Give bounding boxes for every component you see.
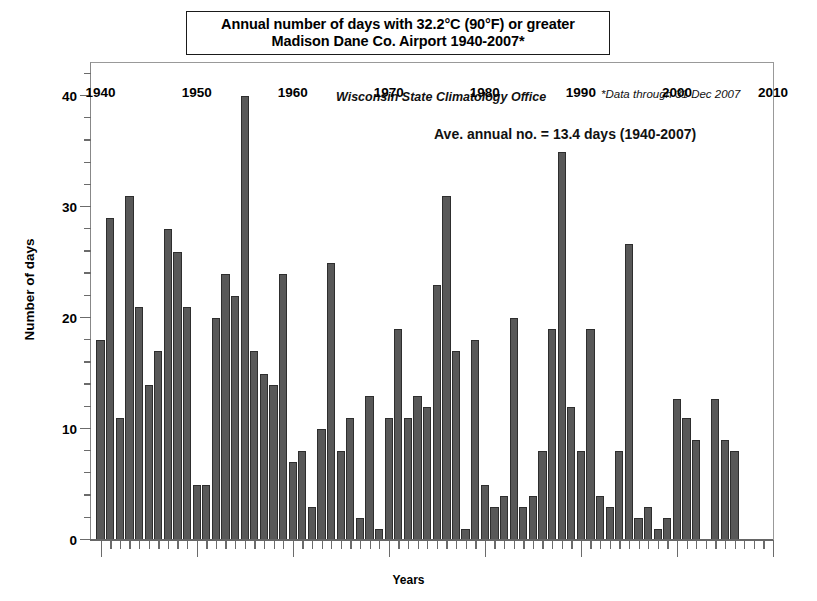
y-tick-20	[80, 317, 91, 318]
y-tick-12	[84, 406, 91, 407]
x-tick-1999	[667, 540, 668, 549]
x-axis: 19401950196019701980199020002010	[91, 63, 773, 540]
y-tick-14	[84, 383, 91, 384]
x-tick-2004	[715, 540, 716, 549]
x-tick-label-1940: 1940	[86, 85, 116, 100]
y-tick-34	[84, 162, 91, 163]
y-tick-18	[84, 339, 91, 340]
x-tick-1959	[283, 540, 284, 549]
x-tick-1948	[177, 540, 178, 549]
x-tick-1974	[427, 540, 428, 549]
y-tick-42	[84, 73, 91, 74]
x-tick-1997	[648, 540, 649, 549]
x-axis-title: Years	[0, 573, 817, 587]
x-tick-2010	[773, 540, 774, 557]
x-tick-1991	[590, 540, 591, 549]
x-tick-1964	[331, 540, 332, 549]
x-tick-1970	[389, 540, 390, 557]
x-tick-2005	[725, 540, 726, 549]
x-tick-1987	[552, 540, 553, 549]
x-tick-1983	[514, 540, 515, 549]
y-tick-label-20: 20	[62, 311, 77, 326]
x-tick-1988	[562, 540, 563, 549]
y-tick-30	[80, 206, 91, 207]
x-tick-1973	[418, 540, 419, 549]
x-tick-1966	[350, 540, 351, 549]
x-tick-1985	[533, 540, 534, 549]
x-tick-1971	[398, 540, 399, 549]
y-tick-8	[84, 450, 91, 451]
chart-title-line-2: Madison Dane Co. Airport 1940-2007*	[271, 33, 524, 50]
x-tick-label-1950: 1950	[182, 85, 212, 100]
x-tick-1955	[245, 540, 246, 549]
x-tick-1992	[600, 540, 601, 549]
x-tick-1965	[341, 540, 342, 549]
y-tick-26	[84, 250, 91, 251]
x-tick-1946	[158, 540, 159, 549]
y-tick-16	[84, 361, 91, 362]
x-tick-1994	[619, 540, 620, 549]
x-tick-1951	[206, 540, 207, 549]
x-tick-1950	[197, 540, 198, 557]
x-axis-line	[90, 539, 773, 541]
x-tick-1949	[187, 540, 188, 549]
x-tick-label-2000: 2000	[662, 85, 692, 100]
x-tick-1962	[312, 540, 313, 549]
x-tick-2000	[677, 540, 678, 557]
x-tick-2003	[706, 540, 707, 549]
y-tick-22	[84, 295, 91, 296]
x-tick-label-2010: 2010	[758, 85, 788, 100]
x-tick-1953	[225, 540, 226, 549]
y-tick-label-10: 10	[62, 422, 77, 437]
x-tick-1998	[658, 540, 659, 549]
x-tick-1961	[302, 540, 303, 549]
x-tick-2006	[735, 540, 736, 549]
y-tick-38	[84, 117, 91, 118]
x-tick-1980	[485, 540, 486, 557]
y-tick-28	[84, 228, 91, 229]
x-tick-1941	[110, 540, 111, 549]
x-tick-2002	[696, 540, 697, 549]
x-tick-1986	[542, 540, 543, 549]
x-tick-1943	[129, 540, 130, 549]
x-tick-1940	[101, 540, 102, 557]
x-tick-1957	[264, 540, 265, 549]
y-tick-label-30: 30	[62, 200, 77, 215]
x-tick-1978	[466, 540, 467, 549]
x-tick-1942	[120, 540, 121, 549]
x-tick-1960	[293, 540, 294, 557]
x-tick-1969	[379, 540, 380, 549]
y-tick-2	[84, 517, 91, 518]
x-tick-1977	[456, 540, 457, 549]
x-tick-2007	[744, 540, 745, 549]
y-tick-4	[84, 494, 91, 495]
x-tick-1979	[475, 540, 476, 549]
plot-area: 010203040 194019501960197019801990200020…	[90, 62, 774, 540]
x-tick-1945	[149, 540, 150, 549]
x-tick-1967	[360, 540, 361, 549]
x-tick-1958	[274, 540, 275, 549]
x-tick-1944	[139, 540, 140, 549]
x-tick-label-1970: 1970	[374, 85, 404, 100]
x-tick-1984	[523, 540, 524, 549]
y-tick-label-40: 40	[62, 89, 77, 104]
y-tick-36	[84, 139, 91, 140]
x-tick-1993	[610, 540, 611, 549]
x-tick-1956	[254, 540, 255, 549]
y-axis-title: Number of days	[22, 230, 37, 350]
y-tick-24	[84, 272, 91, 273]
x-tick-1976	[446, 540, 447, 549]
x-tick-1952	[216, 540, 217, 549]
chart-title-box: Annual number of days with 32.2°C (90°F)…	[186, 11, 610, 55]
chart-figure: Annual number of days with 32.2°C (90°F)…	[0, 0, 817, 601]
x-tick-2009	[763, 540, 764, 549]
x-tick-1954	[235, 540, 236, 549]
x-tick-1982	[504, 540, 505, 549]
x-tick-1947	[168, 540, 169, 549]
x-tick-2008	[754, 540, 755, 549]
x-tick-label-1990: 1990	[566, 85, 596, 100]
chart-title-line-1: Annual number of days with 32.2°C (90°F)…	[221, 16, 575, 33]
x-tick-1996	[639, 540, 640, 549]
x-tick-1995	[629, 540, 630, 549]
x-tick-1972	[408, 540, 409, 549]
